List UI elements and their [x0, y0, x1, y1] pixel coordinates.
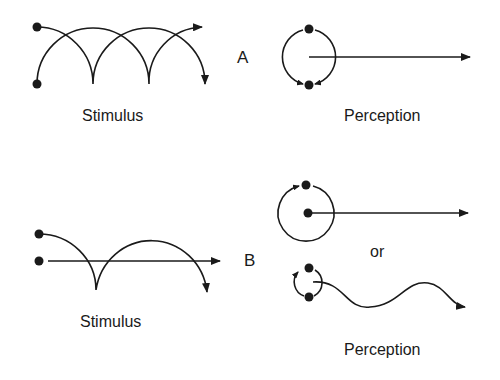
panel-b-stimulus-label: Stimulus — [80, 313, 141, 331]
panel-b-perception-label: Perception — [344, 341, 421, 359]
panel-a-stimulus-label: Stimulus — [82, 107, 143, 125]
dots — [33, 23, 314, 302]
panel-b-or-label: or — [370, 243, 384, 261]
diagram-graphics — [0, 0, 500, 380]
panel-b-stimulus-paths — [39, 234, 220, 292]
panel-a-perception-paths — [282, 30, 470, 84]
panel-a-perception-label: Perception — [344, 107, 421, 125]
panel-a-label: A — [237, 48, 248, 68]
panel-b-perception-lower-paths — [294, 270, 465, 307]
panel-b-label: B — [244, 251, 255, 271]
panel-a-stimulus-paths — [37, 27, 205, 84]
diagram-canvas: A Stimulus Perception B Stimulus or Perc… — [0, 0, 500, 380]
